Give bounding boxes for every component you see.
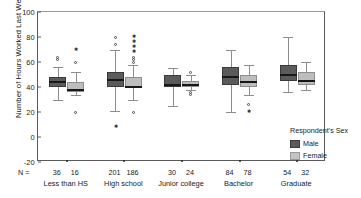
x-tick-0 bbox=[66, 160, 68, 162]
whisker-cap-lower bbox=[168, 106, 178, 107]
median-line bbox=[125, 86, 142, 88]
n-value-male-0: 36 bbox=[53, 168, 61, 177]
legend-title: Respondent's Sex bbox=[290, 126, 361, 135]
outlier-point bbox=[74, 111, 77, 114]
whisker-cap-upper bbox=[110, 50, 120, 51]
box-group-0: ✱ bbox=[38, 12, 96, 160]
median-line bbox=[107, 79, 124, 81]
extreme-point: ✱ bbox=[132, 50, 135, 53]
whisker-cap-upper bbox=[283, 37, 293, 38]
outlier-point bbox=[189, 71, 192, 74]
n-value-male-4: 54 bbox=[283, 168, 291, 177]
whisker-cap-upper bbox=[301, 62, 311, 63]
whisker-cap-lower bbox=[110, 111, 120, 112]
y-tick-100: 100 bbox=[22, 8, 38, 17]
median-line bbox=[182, 84, 199, 86]
whisker-cap-lower bbox=[53, 100, 63, 101]
whisker-cap-lower bbox=[244, 95, 254, 96]
median-line bbox=[49, 81, 66, 83]
legend-label-female: Female bbox=[303, 151, 327, 160]
whisker-cap-upper bbox=[168, 68, 178, 69]
extreme-point: ✱ bbox=[114, 125, 117, 128]
whisker-cap-lower bbox=[283, 92, 293, 93]
median-line bbox=[298, 80, 315, 82]
legend-swatch-male bbox=[290, 140, 300, 148]
extreme-point: ✱ bbox=[132, 35, 135, 38]
outlier-point bbox=[114, 43, 117, 46]
whisker-cap-lower bbox=[226, 112, 236, 113]
whisker-cap-upper bbox=[71, 72, 81, 73]
box-female bbox=[67, 82, 84, 92]
whisker-cap-upper bbox=[244, 65, 254, 66]
category-label-3: Bachelor bbox=[224, 179, 253, 188]
whisker-cap-upper bbox=[226, 50, 236, 51]
n-prefix-label: N = bbox=[18, 168, 29, 177]
outlier-point bbox=[132, 111, 135, 114]
whisker-cap-lower bbox=[71, 95, 81, 96]
n-value-female-1: 186 bbox=[126, 168, 138, 177]
n-value-female-3: 78 bbox=[244, 168, 252, 177]
median-line bbox=[67, 89, 84, 91]
x-tick-3 bbox=[239, 160, 241, 162]
whisker-cap-upper bbox=[53, 67, 63, 68]
median-line bbox=[164, 84, 181, 86]
y-tick-40: 40 bbox=[26, 83, 38, 92]
whisker-cap-upper bbox=[128, 65, 138, 66]
category-label-0: Less than HS bbox=[44, 179, 88, 188]
n-value-male-1: 201 bbox=[108, 168, 120, 177]
box-female bbox=[298, 72, 315, 85]
legend-entry-male: Male bbox=[290, 139, 361, 148]
legend: Respondent's Sex MaleFemale bbox=[290, 126, 361, 160]
legend-entry-female: Female bbox=[290, 151, 361, 160]
n-value-female-0: 16 bbox=[71, 168, 79, 177]
y-tick-0: 0 bbox=[30, 133, 38, 142]
whisker-cap-lower bbox=[128, 100, 138, 101]
y-tick--20: -20 bbox=[24, 158, 38, 167]
n-value-male-2: 30 bbox=[168, 168, 176, 177]
x-tick-1 bbox=[123, 160, 125, 162]
outlier-point bbox=[56, 56, 59, 59]
plot-area: 100806040200-20 ✱✱✱✱✱✱✱ bbox=[37, 11, 325, 161]
extreme-point: ✱ bbox=[132, 40, 135, 43]
outlier-point bbox=[74, 61, 77, 64]
extreme-point: ✱ bbox=[247, 110, 250, 113]
n-value-female-2: 24 bbox=[186, 168, 194, 177]
x-tick-4 bbox=[296, 160, 298, 162]
box-group-1: ✱✱✱✱✱ bbox=[96, 12, 154, 160]
n-value-female-4: 32 bbox=[301, 168, 309, 177]
extreme-point: ✱ bbox=[132, 45, 135, 48]
outlier-point bbox=[189, 93, 192, 96]
y-tick-80: 80 bbox=[26, 33, 38, 42]
category-label-2: Junior college bbox=[158, 179, 204, 188]
outlier-point bbox=[247, 103, 250, 106]
median-line bbox=[240, 81, 257, 83]
whisker-cap-upper bbox=[186, 75, 196, 76]
median-line bbox=[222, 76, 239, 78]
legend-entries: MaleFemale bbox=[290, 139, 361, 160]
outlier-point bbox=[114, 36, 117, 39]
y-tick-60: 60 bbox=[26, 58, 38, 67]
category-label-1: High school bbox=[104, 179, 143, 188]
y-axis-title: Number of Hours Worked Last Week bbox=[14, 0, 23, 135]
legend-label-male: Male bbox=[303, 139, 319, 148]
whisker-cap-lower bbox=[301, 90, 311, 91]
legend-swatch-female bbox=[290, 152, 300, 160]
boxplot-figure: Number of Hours Worked Last Week 1008060… bbox=[0, 0, 361, 198]
x-tick-2 bbox=[181, 160, 183, 162]
y-tick-20: 20 bbox=[26, 108, 38, 117]
box-group-3: ✱ bbox=[211, 12, 269, 160]
box-group-2 bbox=[153, 12, 211, 160]
n-value-male-3: 84 bbox=[226, 168, 234, 177]
median-line bbox=[280, 74, 297, 76]
extreme-point: ✱ bbox=[74, 48, 77, 51]
category-label-4: Graduate bbox=[281, 179, 312, 188]
outlier-point bbox=[132, 56, 135, 59]
